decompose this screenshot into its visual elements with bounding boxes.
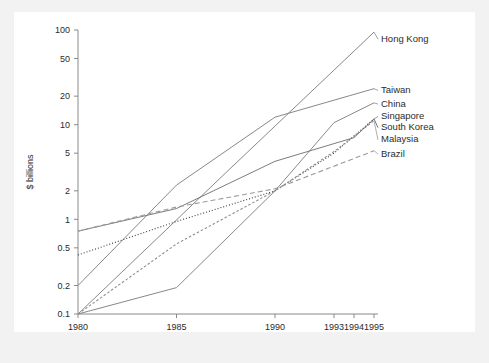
series-label-brazil: Brazil (381, 148, 405, 159)
series-line-hong-kong (78, 32, 374, 314)
series-lines-group (78, 32, 374, 314)
line-chart: 0.10.20.51251020501001980198519901993199… (0, 0, 489, 363)
series-leader-hong-kong (374, 32, 378, 39)
x-tick-label: 1994 (344, 322, 364, 332)
y-tick-label: 0.2 (57, 281, 70, 291)
y-tick-label: 50 (60, 54, 70, 64)
y-tick-label: 1 (65, 215, 70, 225)
series-label-singapore: Singapore (381, 110, 424, 121)
y-axis-title: $ billions (25, 154, 35, 190)
series-leader-taiwan (374, 89, 378, 91)
series-leader-singapore (374, 116, 378, 118)
series-labels-group: Hong KongTaiwanChinaSingaporeSouth Korea… (374, 32, 435, 158)
y-tick-label: 5 (65, 148, 70, 158)
x-tick-label: 1980 (68, 322, 88, 332)
y-tick-label: 2 (65, 186, 70, 196)
series-label-china: China (381, 98, 407, 109)
series-leader-brazil (374, 151, 378, 154)
series-label-south-korea: South Korea (381, 121, 435, 132)
series-line-brazil (78, 151, 374, 231)
chart-figure: 0.10.20.51251020501001980198519901993199… (0, 0, 489, 363)
series-line-malaysia (78, 121, 374, 314)
x-tick-label: 1990 (265, 322, 285, 332)
series-line-singapore (78, 119, 374, 231)
y-tick-label: 0.5 (57, 243, 70, 253)
x-tick-label: 1993 (324, 322, 344, 332)
y-axis-title-group: $ billions (25, 154, 35, 190)
x-tick-label: 1995 (364, 322, 384, 332)
y-tick-label: 0.1 (57, 309, 70, 319)
y-tick-label: 10 (60, 120, 70, 130)
series-label-hong-kong: Hong Kong (381, 33, 429, 44)
series-label-taiwan: Taiwan (381, 84, 411, 95)
y-tick-label: 100 (55, 25, 70, 35)
series-line-south-korea (78, 119, 374, 255)
series-leader-china (374, 103, 378, 104)
series-label-malaysia: Malaysia (381, 133, 419, 144)
series-line-taiwan (78, 89, 374, 286)
x-tick-label: 1985 (166, 322, 186, 332)
y-tick-label: 20 (60, 91, 70, 101)
